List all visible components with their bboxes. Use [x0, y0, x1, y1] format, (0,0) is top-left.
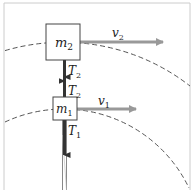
velocity-v1-label: v1: [98, 94, 110, 110]
velocity-v2-label: v2: [112, 26, 124, 42]
tension-T2-down-label: T2: [68, 64, 81, 80]
outer-dashed-path: [5, 42, 190, 86]
tension-T2-up-label: T2: [68, 84, 81, 100]
diagram-canvas: m2 m1 v2 v1 T2 T2 T1: [0, 0, 194, 190]
tension-T1-label: T1: [68, 124, 81, 140]
inner-dashed-path: [5, 109, 189, 188]
frame-border: [4, 3, 190, 190]
